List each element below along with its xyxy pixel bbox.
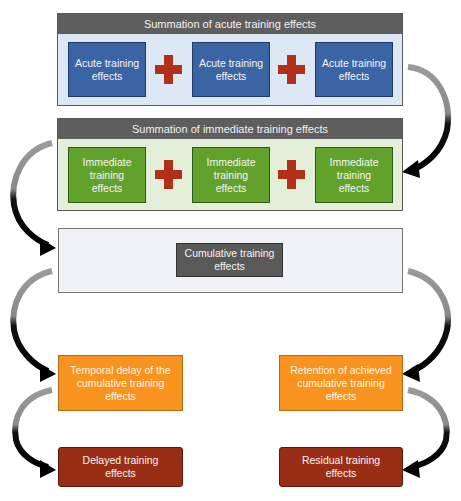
immediate-effect-box-2: Immediate training effects <box>192 147 270 203</box>
plus-icon <box>155 160 182 189</box>
delayed-effects-box: Delayed training effects <box>58 447 183 487</box>
arrow-left-1-icon <box>13 143 56 256</box>
immediate-effect-box-3: Immediate training effects <box>315 147 393 203</box>
plus-icon <box>278 160 305 189</box>
plus-icon <box>155 55 182 84</box>
arrow-right-3-icon <box>402 390 447 478</box>
plus-icon <box>278 55 305 84</box>
acute-effect-box-3: Acute training effects <box>315 42 393 97</box>
acute-effect-box-1: Acute training effects <box>68 42 146 97</box>
immediate-summation-header: Summation of immediate training effects <box>58 119 402 139</box>
acute-effect-box-2: Acute training effects <box>192 42 270 97</box>
arrow-right-2-icon <box>402 271 448 382</box>
cumulative-effects-box: Cumulative training effects <box>176 243 283 277</box>
arrow-left-3-icon <box>15 390 56 478</box>
arrow-right-1-icon <box>402 67 448 178</box>
acute-summation-header: Summation of acute training effects <box>58 14 402 34</box>
retention-box: Retention of achieved cumulative trainin… <box>279 355 403 411</box>
temporal-delay-box: Temporal delay of the cumulative trainin… <box>58 355 183 411</box>
residual-effects-box: Residual training effects <box>279 447 403 487</box>
immediate-effect-box-1: Immediate training effects <box>68 147 146 203</box>
arrow-left-2-icon <box>13 271 56 382</box>
